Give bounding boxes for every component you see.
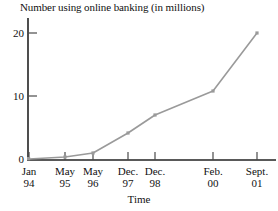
data-point-may-95 <box>63 155 66 158</box>
x-tick-label-line1: Dec. <box>135 165 175 177</box>
x-tick-label-line2: 94 <box>9 177 49 189</box>
x-tick-label-feb-00: Feb. 00 <box>193 165 233 189</box>
x-tick-label-sept-01: Sept. 01 <box>237 165 277 189</box>
x-tick-label-line2: 00 <box>193 177 233 189</box>
data-point-dec-97 <box>126 131 129 134</box>
x-tick-label-line2: 96 <box>73 177 113 189</box>
x-tick-label-line2: 01 <box>237 177 277 189</box>
x-tick-label-line1: Feb. <box>193 165 233 177</box>
data-point-sept-01 <box>255 31 258 34</box>
x-tick-label-line1: May <box>73 165 113 177</box>
x-tick-label-line2: 98 <box>135 177 175 189</box>
data-series-line <box>29 33 257 159</box>
data-point-dec-98 <box>153 113 156 116</box>
x-tick-label-may-96: May 96 <box>73 165 113 189</box>
data-point-may-96 <box>91 151 94 154</box>
x-tick-label-line1: Sept. <box>237 165 277 177</box>
x-axis-title: Time <box>0 193 278 205</box>
chart-container: Number using online banking (in millions… <box>0 0 278 211</box>
data-point-jan-94 <box>27 157 30 160</box>
x-tick-label-dec-98: Dec. 98 <box>135 165 175 189</box>
x-tick-label-line1: Jan <box>9 165 49 177</box>
data-point-feb-00 <box>211 89 214 92</box>
x-tick-label-jan-94: Jan 94 <box>9 165 49 189</box>
